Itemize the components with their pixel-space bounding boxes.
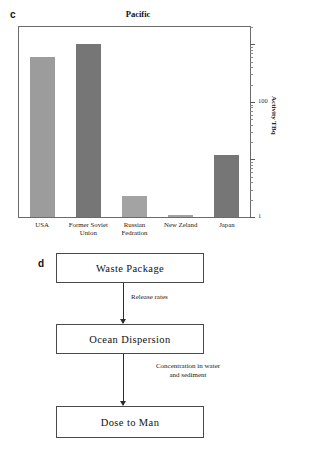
flow-edge-label-concentration: Concentration in water and sediment [128, 362, 248, 380]
bar-usa [30, 57, 55, 217]
y-axis-minor-tick [250, 53, 253, 54]
y-axis-minor-tick [250, 62, 253, 63]
flowchart-panel-d: d Waste Package Release rates Ocean Disp… [0, 245, 309, 449]
y-axis-minor-tick [250, 119, 253, 120]
bar-former-soviet-union [76, 44, 101, 217]
panel-label-d: d [38, 258, 44, 269]
y-axis-minor-tick [250, 177, 253, 178]
chart-panel-c: c Pacific 100 1 Activity TBq USA Former … [0, 0, 309, 245]
flow-node-dose-to-man: Dose to Man [56, 406, 204, 438]
bar-new-zealand [168, 215, 193, 217]
y-axis-minor-tick [250, 107, 253, 108]
y-axis-minor-tick [250, 85, 253, 86]
flow-node-ocean-dispersion: Ocean Dispersion [56, 324, 204, 354]
x-label-japan: Japan [196, 221, 258, 229]
y-axis-minor-tick [250, 105, 253, 106]
y-axis-minor-tick [250, 47, 253, 48]
flow-connector-2 [123, 354, 124, 405]
y-axis-minor-tick [250, 182, 253, 183]
y-tick-label-100: 100 [258, 97, 268, 104]
y-axis-minor-tick [250, 74, 253, 75]
y-axis-minor-tick [250, 132, 253, 133]
y-axis-minor-tick [250, 142, 253, 143]
y-axis-major-tick [250, 102, 255, 103]
flow-node-waste-package: Waste Package [56, 253, 204, 283]
y-axis-minor-tick [250, 111, 253, 112]
y-axis-minor-tick [250, 57, 253, 58]
x-axis-labels: USA Former Soviet Union Russian Fedratio… [19, 221, 250, 245]
y-axis-title: Activity TBq [270, 96, 278, 156]
y-axis-minor-tick [250, 115, 253, 116]
y-axis-ticks [250, 26, 256, 218]
y-axis-minor-tick [250, 125, 253, 126]
bar-japan [214, 155, 239, 217]
y-axis-minor-tick [250, 168, 253, 169]
y-axis-minor-tick [250, 165, 253, 166]
bar-russian-federation [122, 196, 147, 217]
figure-root: c Pacific 100 1 Activity TBq USA Former … [0, 0, 309, 449]
y-axis-minor-tick [250, 162, 253, 163]
flow-edge-label-release-rates: Release rates [131, 293, 168, 302]
chart-title: Pacific [0, 9, 276, 19]
y-tick-label-1: 1 [258, 212, 261, 219]
x-label-japan-line1: Japan [196, 221, 258, 229]
y-axis-minor-tick [250, 67, 253, 68]
plot-area [19, 27, 250, 217]
y-axis-minor-tick [250, 27, 253, 28]
y-axis-minor-tick [250, 172, 253, 173]
x-label-rf-line2: Fedration [104, 229, 166, 237]
y-axis-minor-tick [250, 190, 253, 191]
y-axis-major-tick [250, 44, 255, 45]
y-axis-major-tick [250, 159, 255, 160]
y-axis-major-tick [250, 217, 255, 218]
flow-connector-1 [123, 283, 124, 323]
y-axis-minor-tick [250, 200, 253, 201]
y-axis-minor-tick [250, 50, 253, 51]
